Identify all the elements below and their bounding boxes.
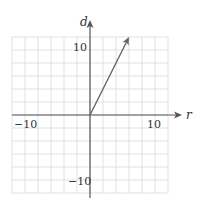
x-tick-neg-10: −10 bbox=[14, 118, 37, 131]
x-tick-10: 10 bbox=[147, 118, 161, 131]
vector-line bbox=[90, 40, 127, 115]
y-tick-neg-10: −10 bbox=[68, 175, 91, 188]
coordinate-plane: r d −10 10 10 −10 bbox=[0, 0, 199, 203]
y-axis-label: d bbox=[80, 15, 88, 29]
y-tick-10: 10 bbox=[73, 41, 87, 54]
x-axis-label: r bbox=[186, 108, 193, 122]
